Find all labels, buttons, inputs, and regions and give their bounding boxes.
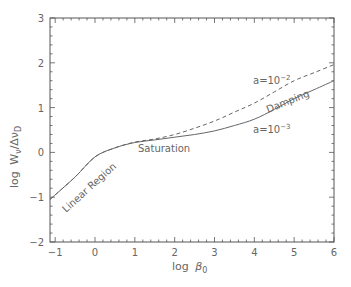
annotation-saturation: Saturation <box>138 143 190 154</box>
x-axis-label: log β0 <box>172 260 207 275</box>
y-axis-label: log Wν/ΔνD <box>8 126 23 188</box>
line-chart: −10123456−2−10123 Linear Region Saturati… <box>0 0 351 287</box>
annotation-a-1e-3: a=10−3 <box>253 123 291 135</box>
annotation-a-1e-2-base: a=10 <box>253 75 280 86</box>
y-tick-label: 1 <box>38 103 44 114</box>
x-tick-label: 6 <box>331 247 337 258</box>
annotation-a-1e-3-base: a=10 <box>253 124 280 135</box>
annotation-a-1e-3-exp: −3 <box>280 123 290 131</box>
axis-ticks <box>50 18 334 242</box>
x-axis-label-log: log <box>172 260 189 273</box>
y-tick-label: 2 <box>38 58 44 69</box>
y-tick-label: −1 <box>29 192 44 203</box>
x-tick-label: 4 <box>251 247 257 258</box>
y-axis-label-w: W <box>8 154 21 165</box>
x-tick-label: 1 <box>132 247 138 258</box>
annotation-a-1e-2-exp: −2 <box>280 74 290 82</box>
plot-area <box>50 18 334 242</box>
axis-tick-labels: −10123456−2−10123 <box>29 13 337 258</box>
x-tick-label: 2 <box>171 247 177 258</box>
annotation-damping: Damping <box>265 88 311 115</box>
x-axis-label-sub: 0 <box>202 266 207 275</box>
y-tick-label: 0 <box>38 147 44 158</box>
y-axis-label-sub: D <box>14 126 23 132</box>
x-tick-label: 0 <box>92 247 98 258</box>
x-tick-label: −1 <box>48 247 63 258</box>
y-tick-label: −2 <box>29 237 44 248</box>
x-tick-label: 5 <box>291 247 297 258</box>
x-tick-label: 3 <box>211 247 217 258</box>
annotation-a-1e-2: a=10−2 <box>253 74 291 86</box>
y-axis-label-slash: /Δν <box>8 132 21 149</box>
annotation-linear-region: Linear Region <box>60 160 118 214</box>
plot-frame <box>50 18 334 242</box>
y-axis-label-log: log <box>8 171 21 188</box>
x-axis-label-beta: β <box>194 260 202 273</box>
y-tick-label: 3 <box>38 13 44 24</box>
